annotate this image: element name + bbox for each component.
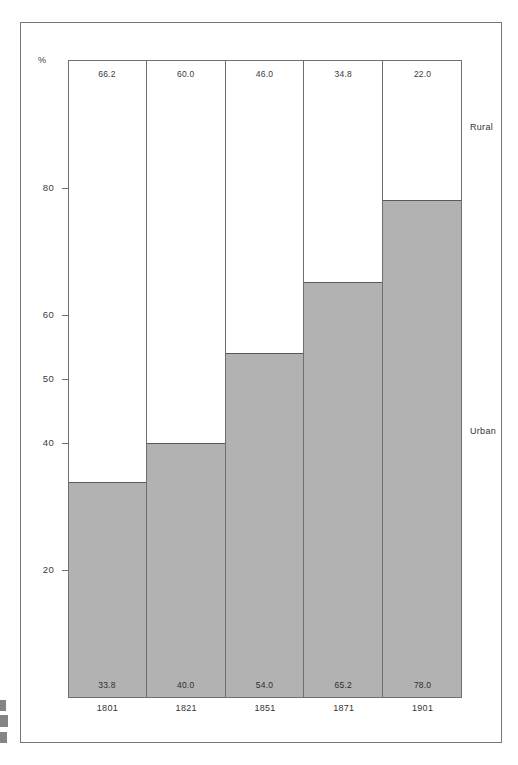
bar-column[interactable]: 34.865.2 — [304, 60, 383, 698]
urban-bar-segment[interactable] — [383, 200, 462, 698]
scan-artifact-mark — [0, 715, 8, 727]
series-label-rural: Rural — [470, 122, 493, 132]
x-tick-label: 1821 — [147, 703, 226, 713]
y-tick-label: 60 — [8, 309, 54, 320]
urban-value-label: 33.8 — [68, 680, 146, 690]
rural-value-label: 34.8 — [304, 69, 382, 79]
bar-column[interactable]: 46.054.0 — [226, 60, 305, 698]
y-tick-label: 40 — [8, 437, 54, 448]
rural-value-label: 22.0 — [383, 69, 462, 79]
y-tick-label: 80 — [8, 182, 54, 193]
x-tick-label: 1871 — [304, 703, 383, 713]
urban-bar-segment[interactable] — [147, 443, 225, 698]
x-tick-label: 1801 — [68, 703, 147, 713]
bar-column[interactable]: 22.078.0 — [383, 60, 462, 698]
y-axis-unit-label: % — [38, 55, 46, 65]
x-tick-label: 1901 — [383, 703, 462, 713]
urban-bar-segment[interactable] — [304, 282, 382, 698]
x-tick-label: 1851 — [226, 703, 305, 713]
y-tick-label: 50 — [8, 373, 54, 384]
scan-artifact-mark — [0, 732, 7, 743]
bar-column[interactable]: 66.233.8 — [68, 60, 147, 698]
urban-value-label: 65.2 — [304, 680, 382, 690]
plot-area: 66.233.860.040.046.054.034.865.222.078.0 — [68, 60, 462, 698]
urban-value-label: 78.0 — [383, 680, 462, 690]
y-tick-label: 20 — [8, 564, 54, 575]
rural-value-label: 66.2 — [68, 69, 146, 79]
series-label-urban: Urban — [470, 426, 496, 436]
urban-bar-segment[interactable] — [226, 353, 304, 698]
bar-column[interactable]: 60.040.0 — [147, 60, 226, 698]
urban-value-label: 40.0 — [147, 680, 225, 690]
page-background: % 2040506080 66.233.860.040.046.054.034.… — [0, 0, 518, 765]
urban-value-label: 54.0 — [226, 680, 304, 690]
urban-bar-segment[interactable] — [68, 482, 146, 698]
rural-value-label: 46.0 — [226, 69, 304, 79]
scan-artifact-mark — [0, 700, 6, 711]
rural-value-label: 60.0 — [147, 69, 225, 79]
